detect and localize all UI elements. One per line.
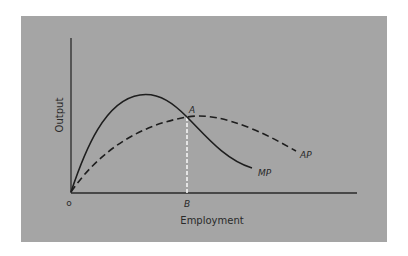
mp-label: MP bbox=[258, 168, 272, 178]
production-curves-chart: Output Employment o B A MP AP bbox=[0, 0, 408, 256]
ap-label: AP bbox=[299, 150, 312, 160]
origin-label: o bbox=[66, 198, 72, 208]
mp-curve bbox=[71, 95, 252, 192]
x-axis-label: Employment bbox=[180, 215, 243, 226]
ap-curve bbox=[71, 116, 296, 192]
point-b-label: B bbox=[184, 199, 190, 209]
point-a-label: A bbox=[188, 105, 195, 115]
y-axis-label: Output bbox=[54, 98, 65, 133]
